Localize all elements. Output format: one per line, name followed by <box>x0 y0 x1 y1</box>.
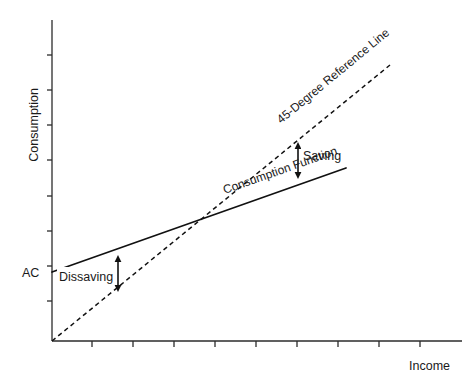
autonomous-consumption-label: AC <box>22 266 39 280</box>
consumption-function-label: Consumption Function <box>221 144 339 197</box>
y-axis-title: Consumption <box>27 88 41 162</box>
x-axis-title: Income <box>409 359 450 373</box>
consumption-function-line <box>52 168 346 272</box>
dissaving-label: Dissaving <box>59 270 113 284</box>
chart-canvas: AC Dissaving Saving 45-Degree Reference … <box>0 0 476 384</box>
y-axis-ticks <box>47 55 52 301</box>
consumption-function-chart: AC Dissaving Saving 45-Degree Reference … <box>0 0 476 384</box>
x-axis-ticks <box>92 341 420 347</box>
reference-line-45-degree <box>52 65 390 341</box>
